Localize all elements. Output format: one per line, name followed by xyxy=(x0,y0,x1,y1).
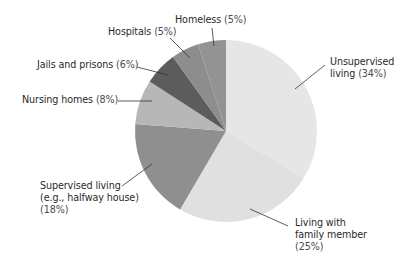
label-percent: (8%) xyxy=(96,94,118,105)
label-supervised: Supervised living (e.g., halfway house) … xyxy=(40,180,139,216)
label-family: Living with family member (25%) xyxy=(295,217,367,253)
label-percent: (5%) xyxy=(154,26,176,37)
label-percent: (18%) xyxy=(40,204,139,216)
label-line-2: (e.g., halfway house) xyxy=(40,192,139,204)
label-text: Nursing homes xyxy=(22,94,96,105)
pie-slices xyxy=(135,40,317,222)
label-unsupervised: Unsupervised living (34%) xyxy=(330,56,394,80)
label-text: Hospitals xyxy=(108,26,154,37)
label-line-2: family member xyxy=(295,229,367,241)
label-text: Homeless xyxy=(175,14,224,25)
leader-line-family xyxy=(250,209,288,226)
label-line-1: Unsupervised xyxy=(330,56,394,68)
label-hospitals: Hospitals (5%) xyxy=(108,26,177,38)
label-homeless: Homeless (5%) xyxy=(175,14,246,26)
label-line-2: living xyxy=(330,68,358,79)
label-percent: (5%) xyxy=(224,14,246,25)
label-line-1: Supervised living xyxy=(40,180,139,192)
label-percent: (25%) xyxy=(295,241,367,253)
label-line-1: Living with xyxy=(295,217,367,229)
label-percent: (6%) xyxy=(116,59,138,70)
label-nursing: Nursing homes (8%) xyxy=(22,94,118,106)
leader-line-unsupervised xyxy=(295,65,325,89)
label-percent: (34%) xyxy=(358,68,386,79)
label-text: Jails and prisons xyxy=(37,59,116,70)
label-jails: Jails and prisons (6%) xyxy=(37,59,138,71)
